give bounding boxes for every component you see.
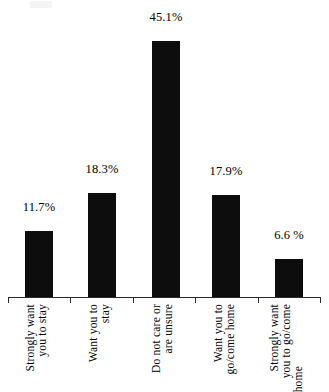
bar-1 bbox=[25, 231, 53, 297]
category-label-3-line-1: Do not care or bbox=[150, 304, 162, 373]
category-label-1-line-2: you to stay bbox=[36, 304, 48, 357]
category-label-5-line-3: home bbox=[292, 366, 304, 392]
bar-group-3: 45.1% bbox=[152, 0, 180, 297]
category-label-5-line-2: you to go/come bbox=[280, 304, 292, 378]
x-axis-tick-2 bbox=[133, 297, 134, 303]
bar-2 bbox=[88, 193, 116, 297]
bar-4 bbox=[212, 195, 240, 297]
category-label-1-line-1: Strongly want bbox=[24, 304, 36, 371]
x-axis-tick-3 bbox=[195, 297, 196, 303]
bar-value-2: 18.3% bbox=[86, 163, 119, 176]
category-label-2-line-2: stay bbox=[99, 304, 111, 323]
bar-group-1: 11.7% bbox=[25, 0, 53, 297]
bar-value-3: 45.1% bbox=[150, 11, 183, 24]
category-label-4-line-1: Want you to bbox=[212, 304, 224, 362]
plot-area: 11.7% 18.3% 45.1% 17.9% 6.6 % bbox=[0, 0, 329, 297]
bar-group-2: 18.3% bbox=[88, 0, 116, 297]
bar-3 bbox=[152, 41, 180, 297]
bar-value-1: 11.7% bbox=[23, 201, 55, 214]
category-label-3-line-2: are unsure bbox=[162, 304, 174, 354]
x-axis-tick-0 bbox=[8, 297, 9, 303]
category-label-4-line-2: go/come home bbox=[224, 304, 236, 374]
bar-value-4: 17.9% bbox=[210, 165, 243, 178]
bar-value-5: 6.6 % bbox=[274, 229, 304, 242]
category-axis-labels: Strongly want you to stay Want you to st… bbox=[0, 304, 329, 392]
category-label-2: Want you to stay bbox=[87, 304, 111, 392]
category-label-5-line-1: Strongly want bbox=[268, 304, 280, 371]
x-axis-tick-5 bbox=[320, 297, 321, 303]
x-axis-tick-4 bbox=[258, 297, 259, 303]
bar-group-4: 17.9% bbox=[212, 0, 240, 297]
bar-group-5: 6.6 % bbox=[275, 0, 303, 297]
category-label-1: Strongly want you to stay bbox=[24, 304, 48, 392]
bar-chart: 11.7% 18.3% 45.1% 17.9% 6.6 % Strongly w… bbox=[0, 0, 329, 392]
category-label-4: Want you to go/come home bbox=[212, 304, 236, 392]
category-label-5: Strongly want you to go/come home bbox=[268, 304, 304, 392]
bar-5 bbox=[275, 259, 303, 297]
x-axis-line bbox=[8, 297, 321, 298]
category-label-3: Do not care or are unsure bbox=[150, 304, 174, 392]
x-axis-tick-1 bbox=[70, 297, 71, 303]
category-label-2-line-1: Want you to bbox=[87, 304, 99, 362]
